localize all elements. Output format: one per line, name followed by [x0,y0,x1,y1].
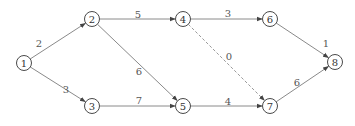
edge-weight-label: 2 [36,38,42,49]
network-diagram: 2356730416 12345678 [0,0,355,126]
node-8: 8 [328,55,343,70]
edge-6-8 [276,23,328,58]
node-label: 7 [267,101,273,112]
node-5: 5 [176,99,191,114]
edge-weight-label: 4 [225,96,231,107]
arrow-line [97,24,177,100]
edge-1-3 [30,67,85,102]
node-layer: 12345678 [17,12,343,114]
node-7: 7 [263,99,278,114]
edge-weight-label: 6 [294,77,300,88]
node-6: 6 [263,12,278,27]
node-label: 1 [21,58,27,69]
node-label: 8 [332,57,338,68]
node-label: 6 [267,14,273,25]
node-3: 3 [85,99,100,114]
node-label: 4 [180,14,186,25]
edge-2-5 [97,24,177,100]
edge-weight-label: 7 [136,95,142,106]
node-label: 2 [89,14,95,25]
edge-4-7-dummy [188,24,264,100]
edge-7-8 [276,67,328,102]
node-4: 4 [176,12,191,27]
edge-weight-label: 0 [226,51,232,62]
edge-layer [30,19,328,106]
node-2: 2 [85,12,100,27]
edge-weight-label: 3 [63,84,69,95]
edge-weight-label: 1 [323,38,329,49]
node-label: 5 [180,101,186,112]
arrow-line [276,23,328,58]
edge-weight-label: 3 [225,8,231,19]
edge-weight-label: 5 [135,9,141,20]
node-label: 3 [89,101,95,112]
node-1: 1 [17,56,32,71]
arrow-line [30,67,85,102]
edge-weight-label: 6 [136,66,142,77]
arrow-line [276,67,328,102]
arrow-line [188,24,264,100]
